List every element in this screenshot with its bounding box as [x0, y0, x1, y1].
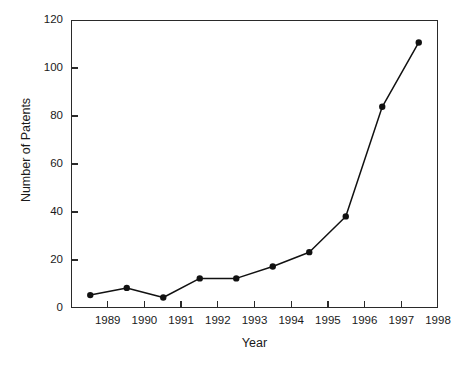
x-tick-label: 1995 — [305, 314, 351, 326]
y-tick-label: 100 — [29, 62, 63, 74]
x-tick-label: 1990 — [121, 314, 167, 326]
y-tick-label: 20 — [29, 254, 63, 266]
x-tick-label: 1998 — [415, 314, 461, 326]
data-point — [233, 275, 239, 281]
series-line — [90, 42, 419, 297]
data-point — [379, 104, 385, 110]
data-point — [197, 275, 203, 281]
data-point — [124, 285, 130, 291]
data-point — [416, 39, 422, 45]
patents-line-chart: 020406080100120 198919901991199219931994… — [0, 0, 469, 367]
series-plot — [72, 21, 437, 307]
data-point-markers — [87, 39, 422, 300]
data-point — [160, 294, 166, 300]
x-tick-label: 1992 — [195, 314, 241, 326]
x-tick-label: 1994 — [268, 314, 314, 326]
y-tick-label: 80 — [29, 110, 63, 122]
x-tick-label: 1993 — [232, 314, 278, 326]
data-point — [306, 249, 312, 255]
x-axis-title: Year — [71, 336, 438, 350]
x-tick-label: 1989 — [85, 314, 131, 326]
data-point — [87, 292, 93, 298]
y-tick-label: 40 — [29, 206, 63, 218]
x-tick-label: 1997 — [378, 314, 424, 326]
plot-area — [71, 20, 438, 308]
y-axis-title: Number of Patents — [19, 70, 33, 230]
x-tick-label: 1991 — [158, 314, 204, 326]
y-tick-label: 0 — [29, 302, 63, 314]
y-tick-label: 120 — [29, 14, 63, 26]
data-point — [343, 213, 349, 219]
x-tick-label: 1996 — [342, 314, 388, 326]
y-tick-label: 60 — [29, 158, 63, 170]
data-point — [270, 263, 276, 269]
